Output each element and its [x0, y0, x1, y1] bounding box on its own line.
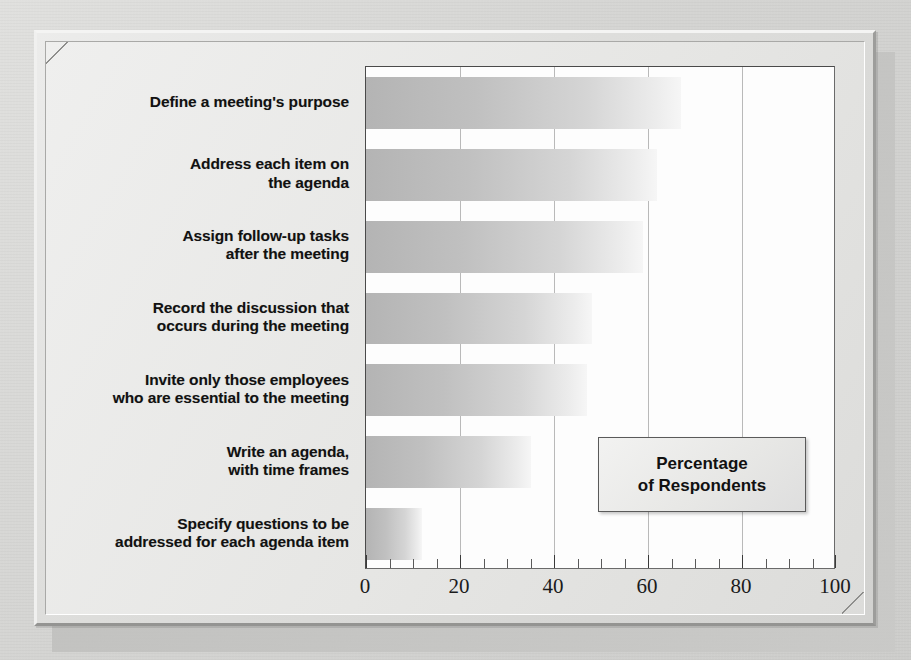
bar-chart: Define a meeting's purposeAddress each i…: [37, 33, 873, 623]
bar: [366, 77, 681, 129]
tick-major-40: [554, 555, 555, 568]
tick-minor-75: [719, 559, 720, 568]
x-tick-label-40: 40: [543, 574, 564, 599]
tick-major-100: [835, 555, 836, 568]
bar: [366, 293, 592, 345]
tick-minor-95: [813, 559, 814, 568]
tick-minor-35: [531, 559, 532, 568]
tick-minor-5: [390, 559, 391, 568]
bar-slot: [366, 364, 834, 416]
tick-major-20: [460, 555, 461, 568]
x-tick-label-100: 100: [819, 574, 851, 599]
category-label: Assign follow-up tasksafter the meeting: [47, 227, 349, 264]
category-label: Record the discussion thatoccurs during …: [47, 299, 349, 336]
x-tick-label-80: 80: [731, 574, 752, 599]
x-tick-label-20: 20: [449, 574, 470, 599]
category-label: Address each item onthe agenda: [47, 155, 349, 192]
tick-minor-50: [601, 559, 602, 568]
bar: [366, 508, 422, 560]
bar: [366, 364, 587, 416]
tick-major-0: [366, 555, 367, 568]
tick-minor-90: [789, 559, 790, 568]
tick-minor-70: [695, 559, 696, 568]
tick-minor-10: [413, 559, 414, 568]
tick-minor-55: [625, 559, 626, 568]
value-axis-labels: 020406080100: [365, 574, 835, 608]
bar-slot: [366, 508, 834, 560]
tick-major-60: [648, 555, 649, 568]
figure-frame: Define a meeting's purposeAddress each i…: [34, 30, 876, 626]
tick-minor-30: [507, 559, 508, 568]
tick-minor-65: [672, 559, 673, 568]
bar-slot: [366, 149, 834, 201]
category-label: Define a meeting's purpose: [47, 93, 349, 111]
tick-minor-25: [484, 559, 485, 568]
bar: [366, 221, 643, 273]
x-tick-label-0: 0: [360, 574, 371, 599]
category-label: Write an agenda,with time frames: [47, 443, 349, 480]
bar: [366, 149, 657, 201]
x-tick-label-60: 60: [637, 574, 658, 599]
legend-line-1: Percentage: [656, 453, 748, 474]
tick-minor-85: [766, 559, 767, 568]
category-label: Specify questions to beaddressed for eac…: [47, 515, 349, 552]
legend-box: Percentage of Respondents: [598, 437, 806, 512]
category-label: Invite only those employeeswho are essen…: [47, 371, 349, 408]
bar-slot: [366, 77, 834, 129]
bar: [366, 436, 531, 488]
bar-slot: [366, 293, 834, 345]
tick-minor-15: [437, 559, 438, 568]
legend-line-2: of Respondents: [638, 475, 766, 496]
tick-major-80: [742, 555, 743, 568]
bar-slot: [366, 221, 834, 273]
tick-minor-45: [578, 559, 579, 568]
category-axis-labels: Define a meeting's purposeAddress each i…: [47, 66, 357, 569]
